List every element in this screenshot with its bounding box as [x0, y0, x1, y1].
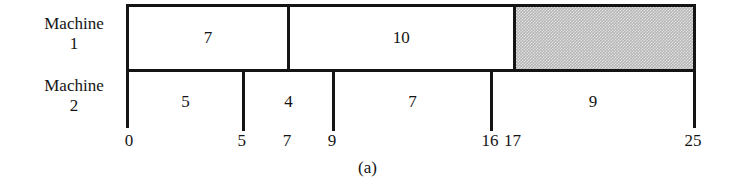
gantt-lane-machine-2: 5479	[129, 69, 693, 131]
figure-caption-text: (a)	[358, 158, 377, 178]
row-label-machine-2-line2: 2	[28, 96, 120, 116]
x-axis-tick-labels: 0579161725	[126, 130, 696, 156]
gantt-block-1-2: 10	[287, 7, 513, 69]
gantt-block-label: 7	[408, 92, 417, 112]
x-tick-5: 5	[238, 130, 247, 152]
x-tick-17: 17	[504, 130, 521, 152]
gantt-block-2-1: 5	[129, 72, 242, 131]
figure-caption: (a)	[0, 158, 733, 178]
gantt-block-2-4: 9	[490, 72, 693, 131]
row-label-machine-2-line1: Machine	[28, 76, 120, 96]
gantt-lane-machine-1: 710	[129, 7, 693, 69]
x-tick-7: 7	[283, 130, 292, 152]
x-tick-16: 16	[481, 130, 498, 152]
row-label-machine-1-line2: 1	[28, 34, 120, 54]
gantt-figure: Machine 1 Machine 2 710 5479 0579161725 …	[0, 0, 733, 193]
x-tick-0: 0	[125, 130, 134, 152]
row-label-machine-1-line1: Machine	[28, 14, 120, 34]
gantt-block-2-2: 4	[242, 72, 332, 131]
x-tick-25: 25	[685, 130, 702, 152]
gantt-block-label: 7	[204, 28, 213, 48]
row-label-machine-2: Machine 2	[28, 76, 120, 116]
x-tick-9: 9	[328, 130, 337, 152]
gantt-block-label: 9	[589, 92, 598, 112]
gantt-block-2-3: 7	[332, 72, 490, 131]
row-label-machine-1: Machine 1	[28, 14, 120, 54]
gantt-block-1-1: 7	[129, 7, 287, 69]
gantt-block-label: 10	[393, 28, 410, 48]
gantt-block-label: 4	[284, 92, 293, 112]
gantt-block-label: 5	[181, 92, 190, 112]
gantt-plot-area: 710 5479	[126, 4, 696, 128]
gantt-block-1-3	[513, 7, 693, 69]
